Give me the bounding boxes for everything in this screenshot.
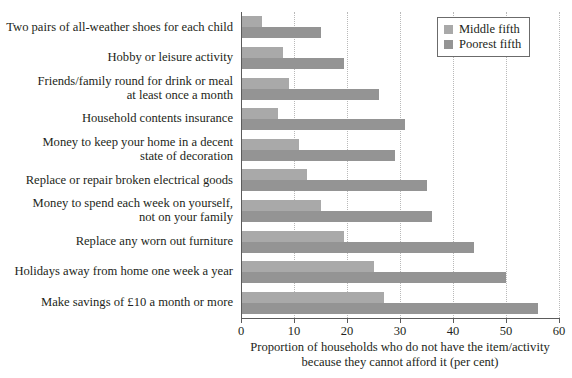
bar-middle-fifth [241, 78, 289, 89]
legend-item-middle-fifth: Middle fifth [444, 22, 521, 37]
legend-swatch-icon-poorest-fifth [444, 40, 453, 49]
bar-group [241, 108, 559, 130]
category-label: Money to keep your home in a decent stat… [5, 135, 233, 164]
category-label: Holidays away from home one week a year [5, 264, 233, 279]
category-label: Money to spend each week on yourself, no… [5, 196, 233, 225]
bar-middle-fifth [241, 139, 299, 150]
grouped-bar-chart: 0102030405060 Two pairs of all-weather s… [0, 0, 572, 378]
x-tick-label: 30 [380, 324, 420, 338]
category-label: Friends/family round for drink or meal a… [5, 74, 233, 103]
bar-middle-fifth [241, 108, 278, 119]
category-label: Two pairs of all-weather shoes for each … [5, 20, 233, 35]
gridline [559, 12, 561, 318]
x-tick-label: 0 [221, 324, 261, 338]
bar-middle-fifth [241, 292, 384, 303]
bar-group [241, 261, 559, 283]
x-tick-mark [294, 318, 295, 323]
x-tick-mark [559, 318, 560, 323]
category-label: Household contents insurance [5, 111, 233, 126]
bar-middle-fifth [241, 169, 307, 180]
x-tick-mark [400, 318, 401, 323]
category-label: Hobby or leisure activity [5, 50, 233, 65]
bar-group [241, 200, 559, 222]
bar-poorest-fifth [241, 150, 395, 161]
legend-swatch-icon-middle-fifth [444, 25, 453, 34]
bar-group [241, 231, 559, 253]
chart-legend: Middle fifth Poorest fifth [437, 17, 530, 57]
bar-poorest-fifth [241, 211, 432, 222]
bar-poorest-fifth [241, 303, 538, 314]
bar-group [241, 292, 559, 314]
category-label: Replace any worn out furniture [5, 234, 233, 249]
bar-middle-fifth [241, 261, 374, 272]
x-tick-label: 20 [327, 324, 367, 338]
legend-label-poorest-fifth: Poorest fifth [459, 37, 521, 52]
y-axis-line [241, 12, 242, 319]
bar-group [241, 139, 559, 161]
bar-poorest-fifth [241, 272, 506, 283]
x-tick-mark [347, 318, 348, 323]
plot-area [241, 12, 559, 318]
bar-poorest-fifth [241, 119, 405, 130]
category-label: Make savings of £10 a month or more [5, 295, 233, 310]
x-tick-label: 50 [486, 324, 526, 338]
bar-poorest-fifth [241, 180, 427, 191]
x-tick-mark [453, 318, 454, 323]
x-tick-label: 10 [274, 324, 314, 338]
x-tick-mark [241, 318, 242, 323]
bar-middle-fifth [241, 16, 262, 27]
bar-poorest-fifth [241, 89, 379, 100]
bar-poorest-fifth [241, 242, 474, 253]
bar-group [241, 169, 559, 191]
x-tick-label: 60 [539, 324, 572, 338]
x-tick-label: 40 [433, 324, 473, 338]
legend-label-middle-fifth: Middle fifth [459, 22, 520, 37]
legend-item-poorest-fifth: Poorest fifth [444, 37, 521, 52]
category-label: Replace or repair broken electrical good… [5, 173, 233, 188]
x-axis-title: Proportion of households who do not have… [228, 340, 572, 370]
bar-group [241, 78, 559, 100]
bar-middle-fifth [241, 200, 321, 211]
bar-middle-fifth [241, 47, 283, 58]
bar-poorest-fifth [241, 27, 321, 38]
bar-poorest-fifth [241, 58, 344, 69]
bar-middle-fifth [241, 231, 344, 242]
x-tick-mark [506, 318, 507, 323]
